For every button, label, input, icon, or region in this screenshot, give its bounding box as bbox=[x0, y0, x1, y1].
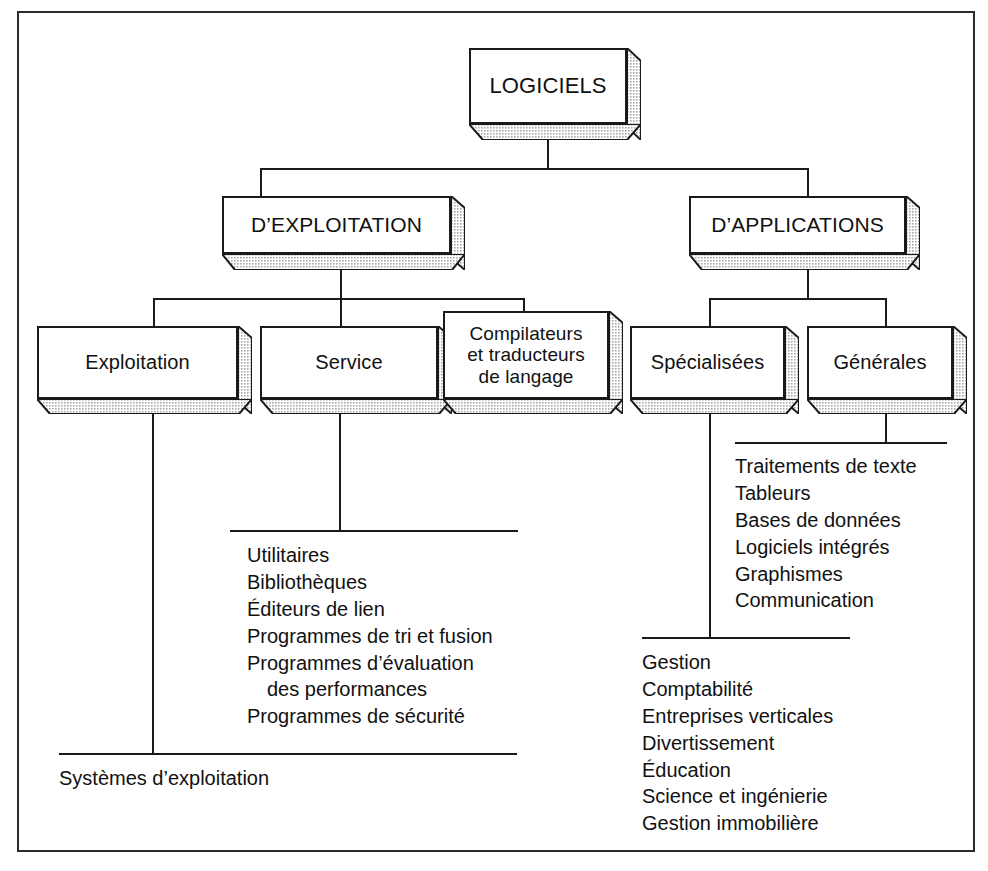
node-exploitation[interactable]: Exploitation bbox=[37, 326, 252, 414]
node-generales[interactable]: Générales bbox=[807, 326, 967, 414]
node-side-bottom bbox=[689, 254, 920, 270]
list-item: Gestion immobilière bbox=[642, 810, 833, 837]
node-side-bottom bbox=[222, 254, 465, 270]
node-label-line-2: et traducteurs bbox=[461, 344, 591, 365]
list-item: Comptabilité bbox=[642, 676, 833, 703]
node-label: D’APPLICATIONS bbox=[705, 213, 890, 237]
node-face: D’EXPLOITATION bbox=[222, 196, 451, 254]
list-item: Éducation bbox=[642, 757, 833, 784]
connector-root-stem bbox=[547, 139, 549, 169]
node-label: Exploitation bbox=[79, 351, 196, 373]
node-specialisees[interactable]: Spécialisées bbox=[630, 326, 799, 414]
connector-applications-stem bbox=[807, 268, 809, 300]
node-side-bottom bbox=[807, 399, 967, 414]
connector-to-applications-branch bbox=[807, 168, 809, 196]
node-exploitation-branch[interactable]: D’EXPLOITATION bbox=[222, 196, 465, 270]
rule-specialisees-list bbox=[642, 637, 850, 639]
list-item: des performances bbox=[247, 676, 493, 703]
node-side-bottom bbox=[630, 399, 799, 414]
rule-exploitation-list bbox=[59, 753, 517, 755]
list-item: Éditeurs de lien bbox=[247, 596, 493, 623]
node-face: Exploitation bbox=[37, 326, 238, 399]
connector-to-service bbox=[340, 298, 342, 326]
node-side-bottom bbox=[37, 399, 252, 414]
connector-to-exploitation-branch bbox=[260, 168, 262, 196]
node-logiciels[interactable]: LOGICIELS bbox=[469, 48, 641, 140]
list-item: Entreprises verticales bbox=[642, 703, 833, 730]
connector-to-generales bbox=[885, 298, 887, 326]
node-label: Service bbox=[309, 351, 388, 373]
rule-generales-list bbox=[735, 442, 947, 444]
node-face: LOGICIELS bbox=[469, 48, 627, 124]
list-item: Programmes de sécurité bbox=[247, 703, 493, 730]
node-side-bottom bbox=[443, 399, 623, 414]
node-face: D’APPLICATIONS bbox=[689, 196, 906, 254]
node-face: Spécialisées bbox=[630, 326, 785, 399]
diagram-page: LOGICIELS D’EXPLOITATION bbox=[0, 0, 988, 871]
list-item: Graphismes bbox=[735, 561, 917, 588]
list-item: Communication bbox=[735, 587, 917, 614]
list-service: Utilitaires Bibliothèques Éditeurs de li… bbox=[247, 542, 493, 730]
node-label: Spécialisées bbox=[645, 351, 771, 373]
list-item: Bibliothèques bbox=[247, 569, 493, 596]
connector-to-exploitation bbox=[153, 298, 155, 326]
connector-level1-bus bbox=[260, 168, 809, 170]
list-item: Utilitaires bbox=[247, 542, 493, 569]
node-face: Générales bbox=[807, 326, 953, 399]
connector-service-to-list bbox=[339, 413, 341, 531]
node-side-bottom bbox=[469, 124, 641, 140]
node-label: Générales bbox=[827, 351, 932, 373]
node-label: LOGICIELS bbox=[483, 74, 612, 99]
connector-exploitation-to-list bbox=[152, 413, 154, 754]
list-item: Science et ingénierie bbox=[642, 783, 833, 810]
node-face: Service bbox=[260, 326, 438, 399]
list-item: Logiciels intégrés bbox=[735, 534, 917, 561]
list-specialisees: Gestion Comptabilité Entreprises vertica… bbox=[642, 649, 833, 837]
connector-to-specialisees bbox=[709, 298, 711, 326]
node-compilateurs[interactable]: Compilateurs et traducteurs de langage bbox=[443, 311, 623, 414]
list-item: Divertissement bbox=[642, 730, 833, 757]
list-item: Systèmes d’exploitation bbox=[59, 765, 269, 792]
list-item: Programmes de tri et fusion bbox=[247, 623, 493, 650]
connector-generales-to-list bbox=[885, 413, 887, 443]
connector-specialisees-to-list bbox=[709, 413, 711, 638]
rule-service-list bbox=[230, 530, 518, 532]
node-face: Compilateurs et traducteurs de langage bbox=[443, 311, 609, 399]
list-item: Gestion bbox=[642, 649, 833, 676]
list-exploitation: Systèmes d’exploitation bbox=[59, 765, 269, 792]
connector-exploitation-stem bbox=[340, 268, 342, 300]
list-item: Bases de données bbox=[735, 507, 917, 534]
node-label-line-1: Compilateurs bbox=[463, 323, 588, 344]
node-label: D’EXPLOITATION bbox=[245, 213, 428, 237]
list-item: Tableurs bbox=[735, 480, 917, 507]
list-generales: Traitements de texte Tableurs Bases de d… bbox=[735, 453, 917, 614]
node-label-line-3: de langage bbox=[472, 366, 579, 387]
connector-level2-bus-right bbox=[709, 298, 887, 300]
node-applications-branch[interactable]: D’APPLICATIONS bbox=[689, 196, 920, 270]
node-side-bottom bbox=[260, 399, 452, 414]
connector-level2-bus-left bbox=[153, 298, 525, 300]
list-item: Programmes d’évaluation bbox=[247, 650, 493, 677]
diagram-frame: LOGICIELS D’EXPLOITATION bbox=[17, 11, 975, 852]
list-item: Traitements de texte bbox=[735, 453, 917, 480]
node-service[interactable]: Service bbox=[260, 326, 452, 414]
